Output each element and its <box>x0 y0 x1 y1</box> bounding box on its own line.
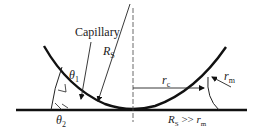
theta2-label: θ2 <box>56 113 66 129</box>
theta1-label: θ1 <box>69 68 79 84</box>
capillary-pointer <box>81 42 91 99</box>
rs-label: RS <box>102 44 115 60</box>
rm-label: rm <box>224 69 236 85</box>
capillary-label: Capillary <box>75 25 120 39</box>
left-meniscus <box>51 67 62 110</box>
right-meniscus <box>208 77 219 110</box>
capillary-diagram: Capillary RS θ1 θ2 rc rm RS >> rm <box>0 0 260 131</box>
rc-label: rc <box>162 73 171 89</box>
scale-condition-label: RS >> rm <box>167 113 207 128</box>
theta1-angle-mark <box>58 84 66 92</box>
